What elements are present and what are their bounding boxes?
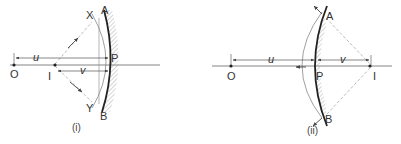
object-point-o — [229, 64, 232, 67]
image-point-i — [368, 64, 371, 67]
label-p: P — [111, 52, 118, 64]
label-a: A — [101, 4, 109, 16]
label-a: A — [326, 10, 334, 22]
label-o: O — [10, 68, 19, 80]
label-o: O — [227, 70, 236, 82]
label-v: v — [80, 64, 87, 76]
label-v: v — [340, 53, 347, 65]
label-u: u — [268, 53, 274, 65]
label-x: X — [86, 9, 94, 21]
label-b: B — [325, 113, 332, 125]
figure-ii-convex-mirror: u v O I P A B (ii) — [212, 6, 392, 136]
mirror-diagrams: u v O I P A B X Y (i) — [0, 0, 401, 144]
ray-arrow-top — [68, 38, 78, 48]
object-point-o — [12, 63, 15, 66]
label-u: u — [33, 51, 39, 63]
caption-ii: (ii) — [307, 125, 318, 136]
label-i: I — [48, 70, 51, 82]
ray-arrow-bottom — [70, 82, 82, 92]
label-b: B — [100, 110, 107, 122]
image-point-i — [53, 63, 56, 66]
label-i: I — [373, 70, 376, 82]
dashed-ray-bottom — [55, 66, 92, 102]
label-y: Y — [86, 102, 94, 114]
dashed-ray-top — [326, 18, 370, 64]
caption-i: (i) — [72, 122, 81, 133]
figure-i-concave-mirror: u v O I P A B X Y (i) — [10, 4, 160, 133]
dashed-ray-bottom — [327, 68, 370, 114]
label-p: P — [316, 70, 323, 82]
ray-arrow-top — [314, 6, 322, 14]
